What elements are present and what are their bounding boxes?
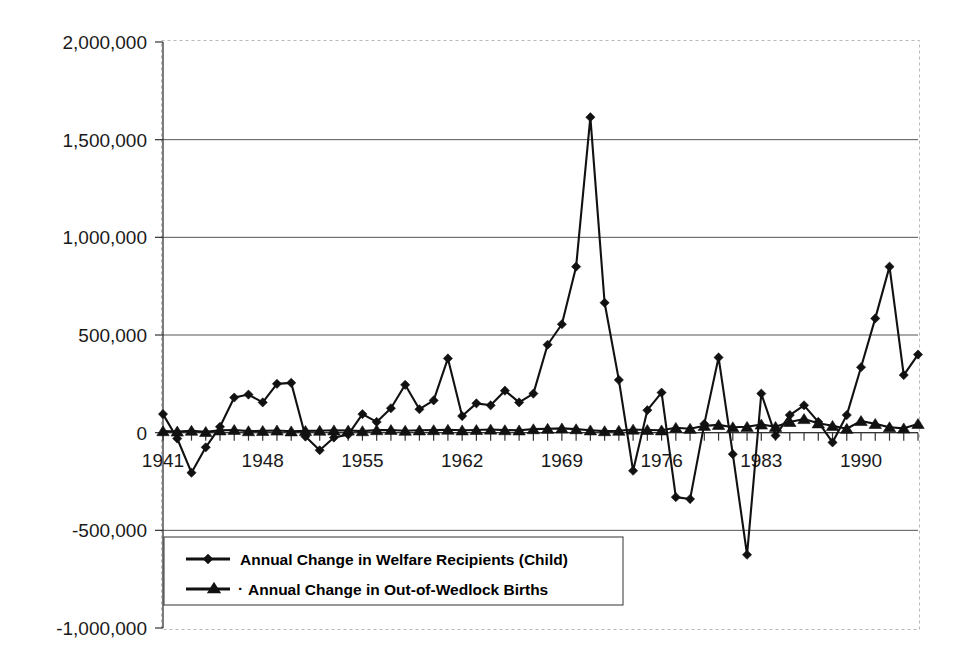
y-axis-tick-label: -1,000,000 [56,618,147,639]
gridlines [163,140,918,531]
data-point-marker [755,419,767,429]
data-point-marker [728,450,737,459]
data-point-marker [443,354,452,363]
legend-entry[interactable]: ·Annual Change in Out-of-Wedlock Births [186,580,548,598]
data-series [157,113,924,560]
data-point-marker [757,389,766,398]
x-axis-tick-label: 1990 [840,450,882,471]
data-point-marker [912,418,924,428]
legend-entry-label: Annual Change in Out-of-Wedlock Births [248,581,548,598]
data-point-marker [586,113,595,122]
y-axis-tick-label: 1,500,000 [62,130,147,151]
data-point-marker [714,353,723,362]
data-point-marker [742,550,751,559]
data-point-marker [671,493,680,502]
x-axis-tick-label: 1969 [541,450,583,471]
y-axis-tick-label: 0 [136,423,147,444]
x-axis-tick-labels: 19411948195519621969197619831990 [142,433,918,471]
data-point-marker [158,410,167,419]
data-point-marker [287,378,296,387]
data-point-marker [572,262,581,271]
data-point-marker [187,468,196,477]
legend-dot-separator: · [238,580,243,597]
data-point-marker [685,494,694,503]
data-point-marker [230,393,239,402]
x-axis-tick-label: 1955 [341,450,383,471]
x-axis-tick-label: 1962 [441,450,483,471]
x-axis-tick-label: 1976 [640,450,682,471]
legend-entry[interactable]: Annual Change in Welfare Recipients (Chi… [186,551,568,568]
data-point-marker [856,363,865,372]
y-axis-tick-label: -500,000 [72,520,147,541]
y-axis-tick-label: 2,000,000 [62,32,147,53]
x-axis-tick-label: 1983 [740,450,782,471]
legend-entry-label: Annual Change in Welfare Recipients (Chi… [240,551,568,568]
data-point-marker [401,380,410,389]
data-point-marker [614,375,623,384]
y-axis-tick-label: 500,000 [78,325,147,346]
data-point-marker [871,314,880,323]
x-axis-tick-label: 1941 [142,450,184,471]
data-point-marker [244,390,253,399]
data-point-marker [842,410,851,419]
data-point-marker [885,262,894,271]
series-1 [158,113,922,560]
data-point-marker [798,414,810,424]
chart-container: 2,000,0001,500,0001,000,000500,0000-500,… [0,0,964,667]
data-point-marker [855,416,867,426]
y-axis-tick-labels: 2,000,0001,500,0001,000,000500,0000-500,… [56,32,163,639]
series-line [163,117,918,555]
y-axis-tick-label: 1,000,000 [62,227,147,248]
chart-legend[interactable]: Annual Change in Welfare Recipients (Chi… [164,537,623,605]
line-chart: 2,000,0001,500,0001,000,000500,0000-500,… [0,0,964,667]
x-axis-tick-label: 1948 [242,450,284,471]
data-point-marker [628,466,637,475]
data-point-marker [600,298,609,307]
